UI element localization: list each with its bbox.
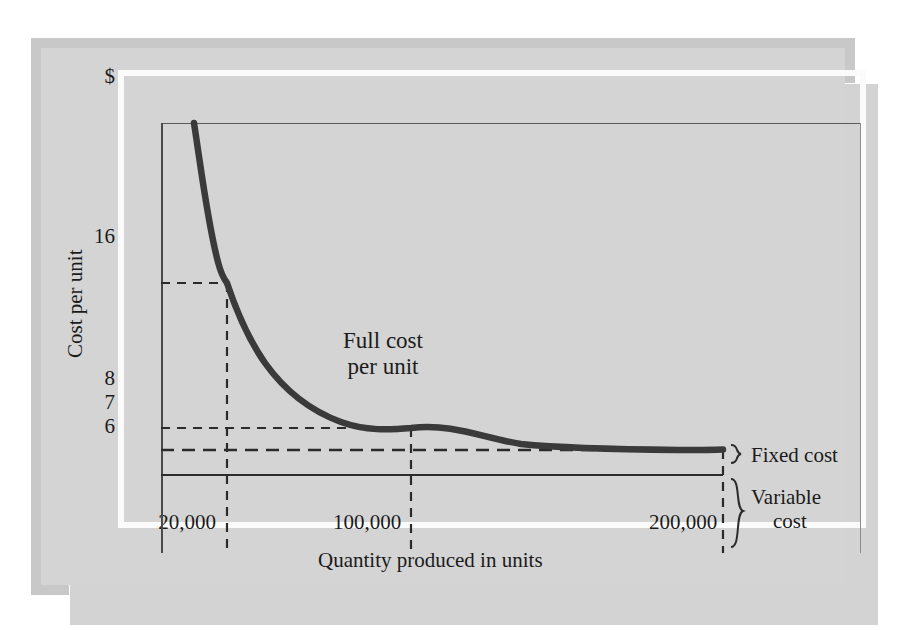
full-cost-curve-label: Full cost per unit [318,328,448,381]
variable-cost-label: Variable cost [751,485,871,533]
variable-cost-brace [731,479,743,547]
full-cost-curve-label-line2: per unit [318,354,448,380]
y-axis-title: Cost per unit [63,250,88,359]
fixed-cost-label: Fixed cost [751,443,838,467]
figure-root: $ 16 8 7 6 Cost per unit 20,000 100,000 … [0,0,900,630]
full-cost-curve [194,123,723,450]
curve-alt-hidden [194,123,723,460]
y-tick-label-7: 7 [81,392,115,413]
curve-draft-hidden [194,123,723,458]
chart-panel: $ 16 8 7 6 Cost per unit 20,000 100,000 … [41,48,845,585]
full-cost-curve-label-line1: Full cost [318,328,448,354]
y-axis-currency-symbol: $ [91,66,115,87]
variable-cost-label-line1: Variable [751,485,871,509]
y-tick-label-8: 8 [81,368,115,389]
plot-area: Full cost per unit Fixed cost Variable c… [161,123,861,553]
y-tick-label-16: 16 [81,226,115,247]
fixed-cost-brace [731,445,741,463]
y-tick-label-6: 6 [81,416,115,437]
curve-segment-hidden [194,123,533,430]
variable-cost-label-line2: cost [751,509,871,533]
